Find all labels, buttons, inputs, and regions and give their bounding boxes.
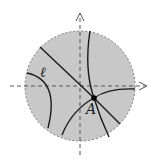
line-l-label: ℓ <box>40 64 46 81</box>
diagram-canvas <box>0 0 157 162</box>
point-a-label: A <box>86 101 96 117</box>
poincare-disk-figure: ℓ A <box>0 0 157 162</box>
point-a <box>91 95 97 101</box>
